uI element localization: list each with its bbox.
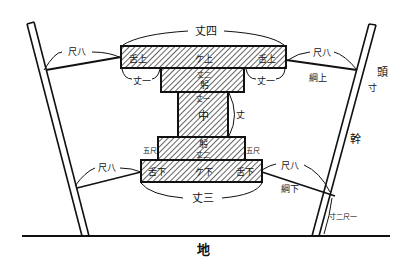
- label-top-width: 丈四: [195, 25, 217, 38]
- label-ground: 地: [197, 242, 210, 257]
- label-upper-beam-right-end: 舌上: [258, 54, 276, 64]
- label-lower-inner-width: 丈二: [196, 150, 210, 159]
- label-bottom-width: 丈三: [192, 192, 214, 205]
- label-lower-beam-center: ケ下: [195, 167, 213, 177]
- label-rope-lower-right: 尺八: [281, 161, 299, 171]
- label-upper-step: 躬: [200, 79, 209, 90]
- label-upper-right-overhang: 丈一: [257, 76, 275, 86]
- label-pole-base-measure: 寸二尺一: [329, 212, 357, 221]
- label-lower-right-tick: 五尺: [246, 147, 260, 155]
- label-rope-lower-left: 尺八: [98, 163, 116, 173]
- label-rope-upper-left: 尺八: [68, 47, 86, 57]
- label-column-top-width: 丈一: [196, 94, 210, 103]
- label-rope-upper-right: 尺八: [313, 48, 331, 58]
- label-upper-beam-left-end: 舌上: [129, 54, 147, 64]
- label-lower-beam-left-end: 舌下: [148, 167, 166, 177]
- label-pole-top-right-sub: 寸: [368, 82, 377, 93]
- label-upper-inner-width: 丈二: [197, 70, 211, 79]
- label-lower-step: 躬: [199, 138, 208, 149]
- label-rope-lower-right-name: 綱下: [281, 183, 299, 194]
- label-lower-beam-right-end: 舌下: [236, 167, 254, 177]
- label-upper-left-overhang: 丈一: [133, 76, 151, 86]
- label-pole-top-right: 頭: [377, 66, 388, 79]
- label-rope-upper-right-name: 綱上: [309, 72, 327, 83]
- label-column-height: 丈: [236, 110, 245, 120]
- label-column-center: 中: [198, 110, 209, 123]
- label-pole-trunk: 幹: [350, 132, 361, 146]
- assembly-diagram: 丈四 舌上 ケ上 舌上 丈一 丈一 丈二 躬 丈一 中 丈 躬 丈二 五尺 五尺…: [0, 0, 409, 269]
- label-upper-beam-center: ケ上: [195, 54, 213, 64]
- label-lower-left-tick: 五尺: [143, 147, 157, 155]
